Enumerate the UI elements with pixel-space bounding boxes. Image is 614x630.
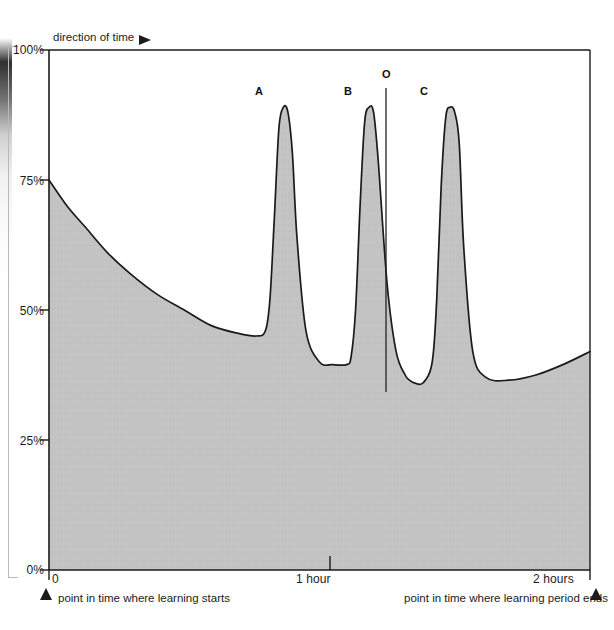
chart-canvas — [0, 0, 614, 630]
learning-start-marker-icon — [40, 588, 52, 600]
learning-end-marker-icon — [590, 588, 602, 600]
retention-area-fill — [49, 106, 590, 570]
y-axis-ticks — [40, 50, 49, 570]
direction-arrow-icon — [139, 35, 151, 45]
retention-curve-figure: 100% 75% 50% 25% 0% direction of time 0 … — [0, 0, 614, 630]
